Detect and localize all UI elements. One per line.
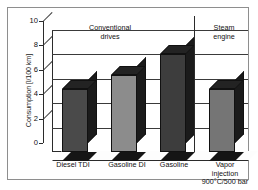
bar-front-face-0 [62,89,88,152]
chart-frame: Consumption [l/100 km] Conventional driv… [7,7,249,180]
gridline-8 [52,54,248,55]
y-tick-label-4: 4 [16,90,38,98]
y-tick-mark-0 [39,143,43,144]
category-label-vapor-line3: 900°C/500 bar [190,178,258,187]
y-tick-mark-10 [39,21,43,22]
plot-area: 0246810 [52,30,248,152]
bar-0[interactable] [62,89,88,152]
y-tick-mark-2 [39,119,43,120]
y-tick-label-0: 0 [16,139,38,147]
category-label-diesel-tdi-line1: Diesel TDI [46,161,100,170]
group-divider-line [194,16,195,152]
bar-front-face-2 [160,54,186,152]
category-label-vapor-injection: Vapor injection 900°C/500 bar [190,161,258,187]
y-tick-label-2: 2 [16,115,38,123]
y-tick-label-8: 8 [16,41,38,49]
category-label-gasoline-di-line1: Gasoline DI [98,161,156,170]
bar-front-face-3 [209,89,235,152]
depth-connector-10 [43,12,53,22]
bar-3[interactable] [209,89,235,152]
y-tick-label-6: 6 [16,66,38,74]
y-tick-label-10: 10 [16,17,38,25]
bar-2[interactable] [160,54,186,152]
gridline-10 [52,30,248,31]
bar-1[interactable] [111,75,137,152]
y-axis-back-line [43,21,44,143]
bar-front-face-1 [111,75,137,152]
y-tick-mark-8 [39,45,43,46]
y-tick-mark-6 [39,70,43,71]
figure-canvas: Consumption [l/100 km] Conventional driv… [0,0,258,190]
y-tick-mark-4 [39,94,43,95]
category-label-diesel-tdi: Diesel TDI [46,161,100,170]
y-axis-line [52,30,53,152]
category-label-gasoline-di: Gasoline DI [98,161,156,170]
